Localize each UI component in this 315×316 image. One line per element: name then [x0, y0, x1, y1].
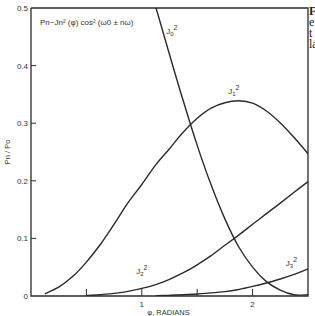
side-caption-fragment: F e t la — [309, 6, 315, 50]
x-axis-label: φ, RADIANS — [147, 308, 189, 316]
curves — [31, 0, 308, 296]
bessel-power-chart: 00.10.20.30.40.512φ, RADIANSPn / Po Pn~J… — [0, 0, 315, 316]
curve-J0² — [31, 0, 308, 295]
series-label: J22 — [136, 264, 147, 277]
series-label: J02 — [166, 24, 177, 37]
y-tick-label: 0.2 — [17, 177, 29, 186]
y-tick-label: 0.3 — [17, 119, 29, 128]
curve-J2² — [86, 182, 308, 296]
labels: Pn~Jn² (φ) cos² (ω0 ± nω)J02J12J22J32 — [40, 18, 297, 277]
x-tick-label: 2 — [250, 300, 255, 309]
plot-frame — [31, 8, 308, 296]
curve-J1² — [45, 101, 308, 294]
formula-annotation: Pn~Jn² (φ) cos² (ω0 ± nω) — [40, 18, 134, 27]
series-label: J32 — [286, 256, 297, 269]
y-tick-label: 0 — [24, 292, 29, 301]
y-tick-label: 0.4 — [17, 62, 29, 71]
y-tick-label: 0.5 — [17, 4, 29, 13]
caption-line-4: la — [309, 39, 315, 50]
series-label: J12 — [228, 84, 239, 97]
axes: 00.10.20.30.40.512φ, RADIANSPn / Po — [3, 4, 308, 316]
y-tick-label: 0.1 — [17, 234, 29, 243]
x-tick-label: 1 — [140, 300, 145, 309]
y-axis-label: Pn / Po — [3, 140, 12, 165]
